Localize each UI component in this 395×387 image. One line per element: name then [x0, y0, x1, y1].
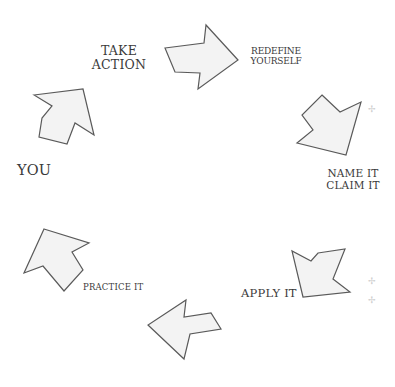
faint-mark-decoration: ✢ [368, 104, 376, 114]
arrow-right-icon [165, 25, 238, 89]
faint-mark-decoration: ✢ [368, 295, 376, 305]
cycle-diagram: TAKE ACTION REDEFINE YOURSELF YOU NAME I… [0, 0, 395, 387]
arrow-up-right-icon [34, 89, 94, 144]
arrow-up-left-icon [24, 229, 89, 291]
label-you: YOU [17, 162, 65, 179]
arrows-layer [0, 0, 395, 387]
arrow-down-right-icon [297, 95, 361, 155]
label-name-it-claim-it: NAME IT CLAIM IT [323, 167, 383, 191]
faint-mark-decoration: ✢ [368, 276, 376, 286]
label-redefine-yourself: REDEFINE YOURSELF [246, 46, 306, 67]
label-practice-it: PRACTICE IT [83, 283, 153, 293]
arrow-left-icon [148, 300, 221, 359]
label-take-action: TAKE ACTION [88, 44, 150, 73]
label-apply-it: APPLY IT [241, 287, 307, 300]
